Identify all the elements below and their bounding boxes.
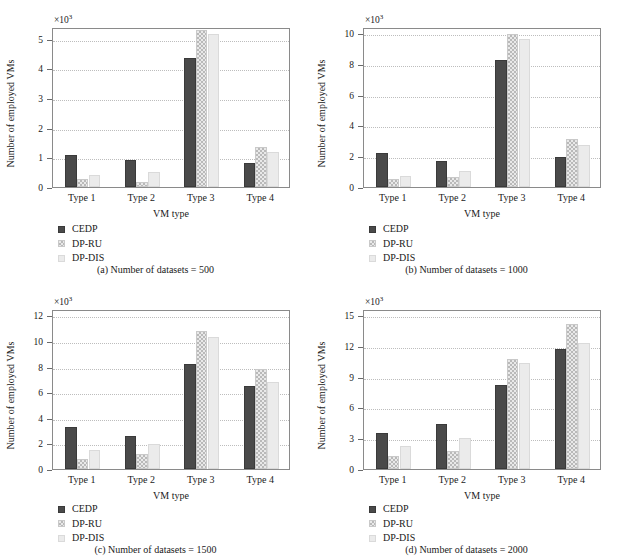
bar-dpru-4 [566,324,578,469]
legend-item-dpru[interactable]: DP-RU [58,237,104,252]
y-axis-tick-label: 10 [345,29,355,39]
legend-swatch-dpdis-icon [369,255,376,262]
bar-dpdis-3 [519,363,531,469]
y-axis-tick-label: 0 [38,465,43,475]
y-axis-tick-label: 3 [349,434,354,444]
bar-dpdis-2 [148,172,160,187]
bar-cedp-2 [436,161,448,187]
bar-cedp-3 [495,385,507,469]
bar-dpru-1 [388,456,400,469]
x-axis-title: VM type [52,490,290,501]
bar-cedp-1 [65,427,77,469]
legend-item-cedp[interactable]: CEDP [58,502,104,517]
x-axis-tick-label: Type 3 [187,474,214,485]
bar-cedp-2 [125,160,137,187]
gridline [53,130,289,131]
x-axis-labels: Type 1Type 2Type 3Type 4 [52,188,290,208]
gridline [53,41,289,42]
subplot-caption-d: (d) Number of datasets = 2000 [311,544,622,555]
legend-label: CEDP [72,222,98,237]
x-axis-tick-label: Type 4 [247,192,274,203]
legend-label: DP-RU [72,237,102,252]
bar-dpru-2 [136,182,148,187]
x-axis-tick-label: Type 3 [187,192,214,203]
bar-cedp-2 [125,436,137,469]
bar-dpdis-4 [267,152,279,187]
bar-dpru-2 [447,177,459,187]
y-axis-tick-label: 3 [38,94,43,104]
legend-swatch-dpru-icon [369,520,376,527]
legend-swatch-cedp-icon [58,506,65,513]
bar-dpdis-1 [400,176,412,187]
x-axis-tick-label: Type 2 [439,192,466,203]
gridline [364,35,600,36]
subplot-b: 0246810×103Type 1Type 2Type 3Type 4VM ty… [311,0,622,280]
axes-d [363,310,601,470]
legend-swatch-cedp-icon [58,226,65,233]
axes-b [363,28,601,188]
legend-item-cedp[interactable]: CEDP [369,222,415,237]
bar-cedp-4 [555,157,567,187]
legend-label: CEDP [383,502,409,517]
x-axis-title: VM type [363,490,601,501]
y-axis-title: Number of employed VMs [5,316,16,476]
bar-dpru-4 [255,369,267,469]
y-axis-tick-label: 4 [38,414,43,424]
legend-item-cedp[interactable]: CEDP [369,502,415,517]
bar-dpru-3 [507,359,519,469]
y-axis-tick-label: 0 [38,183,43,193]
legend-swatch-cedp-icon [369,226,376,233]
subplot-c: 024681012×103Type 1Type 2Type 3Type 4VM … [0,280,311,558]
bar-cedp-4 [555,349,567,469]
legend-label: DP-RU [383,517,413,532]
y-axis-title: Number of employed VMs [316,34,327,194]
bar-dpru-1 [388,179,400,187]
bar-dpru-3 [507,34,519,187]
y-axis-tick-label: 9 [349,373,354,383]
x-axis-tick-label: Type 1 [68,474,95,485]
y-axis-tick-label: 15 [345,311,355,321]
plot-area-a: 012345×103Type 1Type 2Type 3Type 4VM typ… [52,28,290,188]
bar-cedp-1 [376,153,388,187]
bar-cedp-3 [184,364,196,469]
x-axis-tick-label: Type 2 [128,192,155,203]
bar-cedp-1 [376,433,388,469]
legend-c: CEDPDP-RUDP-DIS [58,502,104,546]
y-axis-tick-label: 2 [38,439,43,449]
subplot-caption-c: (c) Number of datasets = 1500 [0,544,311,555]
legend-item-dpru[interactable]: DP-RU [369,517,415,532]
bar-dpru-4 [566,139,578,187]
legend-swatch-dpdis-icon [369,535,376,542]
legend-item-dpru[interactable]: DP-RU [369,237,415,252]
bar-dpdis-4 [267,382,279,469]
y-axis-tick-label: 1 [38,153,43,163]
gridline [364,97,600,98]
y-axis-tick-label: 8 [38,363,43,373]
y-axis-tick-label: 2 [38,124,43,134]
bar-dpdis-2 [459,171,471,187]
legend-d: CEDPDP-RUDP-DIS [369,502,415,546]
bar-dpdis-3 [208,337,220,469]
legend-label: CEDP [72,502,98,517]
y-axis-tick-label: 6 [349,403,354,413]
gridline [53,100,289,101]
subplot-d: 03691215×103Type 1Type 2Type 3Type 4VM t… [311,280,622,558]
axes-a [52,28,290,188]
bar-dpdis-1 [89,175,101,187]
x-axis-tick-label: Type 1 [379,192,406,203]
legend-item-cedp[interactable]: CEDP [58,222,104,237]
y-axis-tick-label: 6 [349,91,354,101]
bar-dpdis-1 [89,450,101,469]
legend-label: DP-RU [72,517,102,532]
x-axis-labels: Type 1Type 2Type 3Type 4 [52,470,290,490]
legend-swatch-dpru-icon [58,520,65,527]
subplot-caption-a: (a) Number of datasets = 500 [0,264,311,275]
bar-cedp-3 [184,58,196,187]
bar-dpru-2 [447,451,459,469]
x-axis-tick-label: Type 2 [128,474,155,485]
subplot-a: 012345×103Type 1Type 2Type 3Type 4VM typ… [0,0,311,280]
y-axis-tick-label: 12 [34,311,44,321]
plot-area-b: 0246810×103Type 1Type 2Type 3Type 4VM ty… [363,28,601,188]
gridline [364,127,600,128]
legend-item-dpru[interactable]: DP-RU [58,517,104,532]
